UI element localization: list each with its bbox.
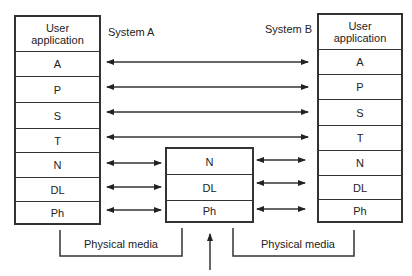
layer-Ph: Ph xyxy=(16,201,99,223)
layer-P: P xyxy=(16,76,99,102)
layer-DL: DL xyxy=(16,177,99,201)
layer-N: N xyxy=(16,152,99,177)
relay-stack: N DL Ph xyxy=(165,147,254,223)
layer-S: S xyxy=(319,99,401,125)
relay-layer-N: N xyxy=(167,149,252,174)
relay-layer-DL: DL xyxy=(167,174,252,200)
layer-Ph: Ph xyxy=(319,199,401,221)
layer-P: P xyxy=(319,74,401,99)
layer-N: N xyxy=(319,150,401,175)
left-media-label: Physical media xyxy=(84,238,158,250)
relay-layer-Ph: Ph xyxy=(167,200,252,221)
layer-T: T xyxy=(319,125,401,150)
layer-user-app: User application xyxy=(319,15,401,49)
layer-DL: DL xyxy=(319,175,401,199)
layer-A: A xyxy=(319,49,401,74)
layer-S: S xyxy=(16,102,99,128)
system-b-label: System B xyxy=(265,23,312,35)
layer-T: T xyxy=(16,128,99,152)
layer-user-app: User application xyxy=(16,17,99,51)
system-b-stack: User application A P S T N DL Ph xyxy=(317,13,403,223)
right-media-label: Physical media xyxy=(261,238,335,250)
system-a-label: System A xyxy=(108,26,154,38)
system-a-stack: User application A P S T N DL Ph xyxy=(14,15,101,225)
layer-A: A xyxy=(16,51,99,76)
